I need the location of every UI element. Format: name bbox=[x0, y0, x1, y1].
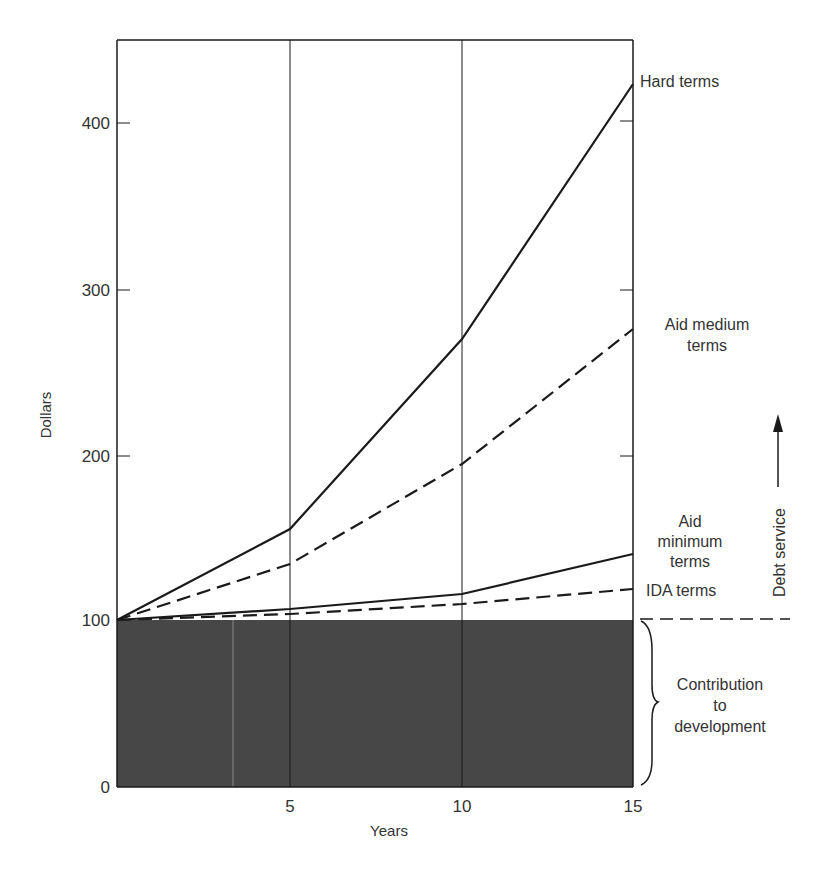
x-tick-label-15: 15 bbox=[624, 797, 643, 816]
debt-service-chart: 400 300 200 100 0 5 10 15 Years Dollars … bbox=[0, 0, 821, 871]
label-aid-medium-line1: Aid medium bbox=[665, 316, 749, 333]
series-aid-medium-terms bbox=[117, 329, 633, 620]
y-axis-title: Dollars bbox=[37, 392, 54, 439]
contribution-shaded-region bbox=[117, 620, 633, 787]
label-aid-minimum-line3: terms bbox=[670, 553, 710, 570]
y-tick-label-200: 200 bbox=[82, 447, 110, 466]
contribution-label-line2: to bbox=[713, 697, 726, 714]
x-tick-label-10: 10 bbox=[453, 797, 472, 816]
y-ticks-left bbox=[117, 123, 130, 456]
label-aid-minimum-line2: minimum bbox=[658, 533, 723, 550]
label-ida-terms: IDA terms bbox=[646, 582, 716, 599]
x-tick-label-5: 5 bbox=[285, 797, 294, 816]
y-tick-label-400: 400 bbox=[82, 114, 110, 133]
series-hard-terms bbox=[117, 84, 633, 620]
x-axis-title: Years bbox=[370, 822, 408, 839]
debt-service-arrow-up-icon bbox=[773, 414, 783, 432]
y-ticks-right bbox=[620, 121, 633, 456]
y-tick-label-0: 0 bbox=[101, 778, 110, 797]
label-aid-medium-line2: terms bbox=[687, 337, 727, 354]
label-aid-minimum-line1: Aid bbox=[678, 513, 701, 530]
contribution-label-line3: development bbox=[674, 718, 766, 735]
debt-service-label: Debt service bbox=[771, 508, 788, 597]
y-tick-label-100: 100 bbox=[82, 611, 110, 630]
y-tick-label-300: 300 bbox=[82, 281, 110, 300]
contribution-label-line1: Contribution bbox=[677, 676, 763, 693]
label-hard-terms: Hard terms bbox=[640, 73, 719, 90]
contribution-brace-icon bbox=[641, 621, 658, 785]
